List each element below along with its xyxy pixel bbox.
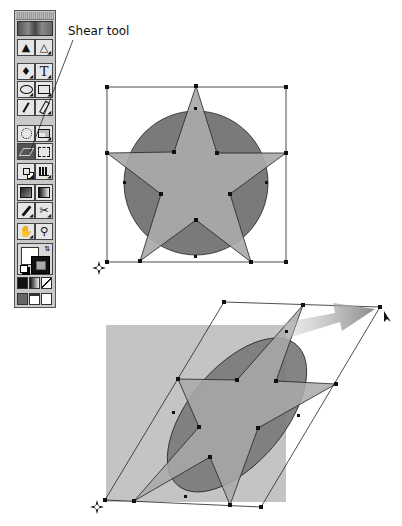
shear-direction-arrow [282, 303, 375, 338]
sheared-reference-point-icon[interactable] [90, 500, 104, 514]
cursor-arrow-icon [384, 311, 391, 322]
reference-point-icon[interactable] [92, 261, 106, 275]
artboard-canvas[interactable] [0, 0, 402, 526]
original-artwork[interactable] [92, 84, 288, 275]
callout-leader-line [30, 40, 73, 152]
sheared-artwork[interactable] [90, 300, 391, 516]
